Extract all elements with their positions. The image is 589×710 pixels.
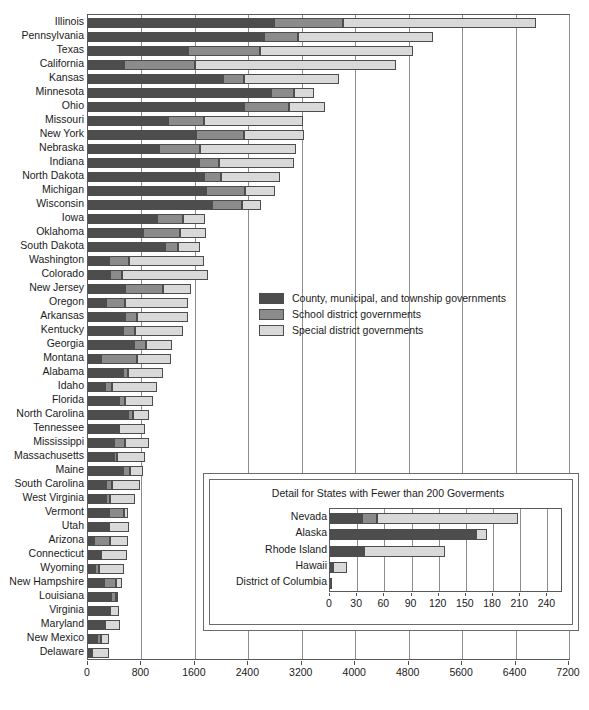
inset-x-axis-tick-label: 60	[378, 597, 390, 609]
bar-segment	[88, 200, 212, 210]
y-axis-label: New York	[0, 128, 84, 138]
bar-row	[88, 256, 569, 266]
bar-segment	[178, 242, 201, 252]
y-axis-label: New Hampshire	[0, 576, 84, 586]
bar-segment	[196, 130, 244, 140]
x-axis-tick	[247, 661, 248, 665]
bar-row	[88, 46, 569, 56]
y-axis-labels: IllinoisPennsylvaniaTexasCaliforniaKansa…	[0, 14, 84, 660]
bar-segment	[88, 466, 123, 476]
bar-segment	[212, 200, 242, 210]
bar-segment	[122, 270, 208, 280]
inset-x-axis-tick	[492, 593, 493, 596]
bar-segment	[109, 508, 124, 518]
y-axis-label: Minnesota	[0, 86, 84, 96]
inset-panel: Detail for States with Fewer than 200 Go…	[203, 473, 579, 631]
bar-segment	[88, 326, 123, 336]
bar-segment	[125, 438, 149, 448]
bar-row	[88, 396, 569, 406]
bar-segment	[204, 116, 303, 126]
bar-segment	[88, 312, 125, 322]
bar-segment	[88, 172, 204, 182]
y-axis-label: Vermont	[0, 506, 84, 516]
inset-x-axis-tick-label: 150	[456, 597, 474, 609]
y-axis-label: Louisiana	[0, 590, 84, 600]
bar-segment	[110, 270, 122, 280]
inset-bar-row	[330, 578, 561, 589]
bar-segment	[244, 74, 339, 84]
bar-segment	[109, 522, 129, 532]
x-axis-tick-label: 6400	[503, 666, 526, 678]
legend-label: County, municipal, and township governme…	[292, 292, 506, 304]
x-axis-tick-label: 3200	[289, 666, 312, 678]
bar-row	[88, 158, 569, 168]
bar-segment	[242, 200, 261, 210]
bar-segment	[88, 634, 97, 644]
bar-segment	[88, 228, 143, 238]
x-axis-tick-label: 4000	[343, 666, 366, 678]
bar-segment	[180, 228, 205, 238]
bar-segment	[88, 284, 125, 294]
y-axis-label: Nebraska	[0, 142, 84, 152]
bar-segment	[125, 298, 188, 308]
x-axis-tick-label: 5600	[449, 666, 472, 678]
x-axis-tick	[568, 661, 569, 665]
bar-segment	[88, 242, 165, 252]
legend-swatch	[259, 325, 284, 336]
bar-segment	[88, 46, 188, 56]
bar-segment	[128, 368, 163, 378]
bar-segment	[88, 354, 101, 364]
bar-segment	[135, 326, 183, 336]
inset-y-axis-label: Rhode Island	[210, 544, 327, 555]
bar-segment	[125, 312, 137, 322]
legend-swatch	[259, 309, 284, 320]
x-axis-tick	[515, 661, 516, 665]
inset-bar-segment	[330, 578, 332, 589]
y-axis-label: Colorado	[0, 268, 84, 278]
y-axis-label: Illinois	[0, 16, 84, 26]
inset-y-axis-labels: NevadaAlaskaRhode IslandHawaiiDistrict o…	[210, 508, 327, 592]
bar-row	[88, 242, 569, 252]
bar-segment	[88, 18, 274, 28]
inset-inner-frame: Detail for States with Fewer than 200 Go…	[209, 479, 573, 625]
inset-x-axis-tick-label: 180	[483, 597, 501, 609]
bar-segment	[219, 158, 294, 168]
bar-segment	[245, 186, 275, 196]
bar-segment	[88, 578, 104, 588]
y-axis-label: Florida	[0, 394, 84, 404]
inset-bar-segment	[364, 546, 445, 557]
bar-segment	[133, 410, 148, 420]
bar-segment	[163, 284, 190, 294]
inset-x-axis-tick	[356, 593, 357, 596]
bar-segment	[116, 592, 118, 602]
bar-segment	[105, 620, 120, 630]
y-axis-label: Oklahoma	[0, 226, 84, 236]
y-axis-label: Maine	[0, 464, 84, 474]
legend: County, municipal, and township governme…	[259, 291, 506, 339]
bar-row	[88, 18, 569, 28]
inset-x-axis-tick-label: 210	[510, 597, 528, 609]
bar-segment	[199, 158, 219, 168]
bar-segment	[200, 144, 297, 154]
bar-segment	[88, 382, 105, 392]
inset-bar-segment	[330, 546, 364, 557]
y-axis-label: Virginia	[0, 604, 84, 614]
bar-segment	[101, 634, 109, 644]
bar-segment	[88, 438, 114, 448]
y-axis-label: Maryland	[0, 618, 84, 628]
bar-segment	[99, 564, 124, 574]
bar-segment	[88, 214, 157, 224]
y-axis-label: Arkansas	[0, 310, 84, 320]
bar-segment	[264, 32, 299, 42]
y-axis-label: South Dakota	[0, 240, 84, 250]
bar-segment	[88, 102, 244, 112]
legend-label: School district governments	[292, 308, 421, 320]
x-axis-tick	[301, 661, 302, 665]
x-axis-tick	[194, 661, 195, 665]
bar-segment	[114, 438, 125, 448]
bar-segment	[88, 32, 264, 42]
y-axis-label: Connecticut	[0, 548, 84, 558]
y-axis-label: Delaware	[0, 646, 84, 656]
y-axis-label: Georgia	[0, 338, 84, 348]
x-axis-tick-label: 4800	[396, 666, 419, 678]
